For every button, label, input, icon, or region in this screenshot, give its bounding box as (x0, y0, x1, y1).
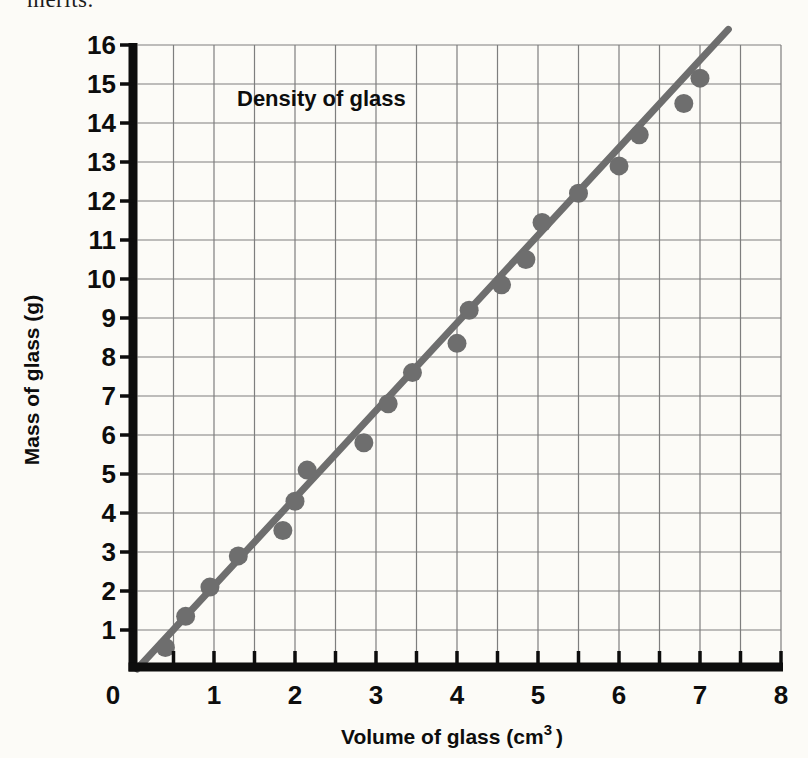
y-tick-label: 7 (102, 381, 116, 411)
data-point (286, 492, 305, 511)
x-tick-label: 1 (207, 680, 221, 710)
data-points (156, 69, 710, 657)
data-point (200, 578, 219, 597)
data-point (298, 461, 317, 480)
scanned-page: merits. 12345678910111213141516012345678… (0, 0, 808, 758)
y-tick-label: 1 (102, 615, 116, 645)
y-tick-label: 8 (102, 342, 116, 372)
data-point (533, 213, 552, 232)
density-of-glass-chart: 12345678910111213141516012345678 Density… (0, 0, 808, 758)
y-tick-label: 14 (87, 108, 116, 138)
data-point (691, 69, 710, 88)
y-tick-label: 4 (102, 498, 117, 528)
y-tick-label: 6 (102, 420, 116, 450)
data-point (229, 546, 248, 565)
y-tick-label: 2 (102, 576, 116, 606)
data-point (610, 156, 629, 175)
y-axis-title: Mass of glass (g) (20, 295, 43, 465)
y-tick-label: 16 (87, 30, 116, 60)
data-point (630, 125, 649, 144)
x-tick-label: 5 (531, 680, 545, 710)
y-tick-label: 9 (102, 303, 116, 333)
axis-ticks (120, 45, 781, 664)
data-point (674, 94, 693, 113)
x-axis-title-prefix: Volume of glass (cm (341, 725, 544, 748)
y-tick-label: 11 (89, 225, 117, 255)
data-point (516, 250, 535, 269)
x-tick-label: 0 (106, 680, 120, 710)
data-point (460, 301, 479, 320)
data-point (492, 275, 511, 294)
y-tick-label: 10 (87, 264, 116, 294)
data-point (379, 394, 398, 413)
data-point (403, 363, 422, 382)
data-point (273, 521, 292, 540)
data-point (354, 433, 373, 452)
y-tick-label: 5 (102, 459, 116, 489)
x-tick-label: 2 (288, 680, 302, 710)
x-axis-title-suffix: ) (556, 725, 563, 748)
data-point (569, 184, 588, 203)
x-tick-label: 6 (612, 680, 626, 710)
y-tick-label: 3 (102, 537, 116, 567)
y-tick-label: 15 (87, 69, 116, 99)
data-point (448, 334, 467, 353)
gridlines (138, 45, 782, 662)
y-tick-label: 13 (87, 147, 116, 177)
x-axis-title: Volume of glass (cm3) (341, 721, 563, 748)
data-point (176, 607, 195, 626)
x-axis-title-superscript: 3 (544, 721, 552, 738)
chart-title: Density of glass (237, 86, 406, 111)
y-tick-label: 12 (87, 186, 116, 216)
x-tick-label: 4 (450, 680, 465, 710)
x-tick-label: 3 (369, 680, 383, 710)
x-tick-label: 8 (774, 680, 788, 710)
x-tick-label: 7 (693, 680, 707, 710)
